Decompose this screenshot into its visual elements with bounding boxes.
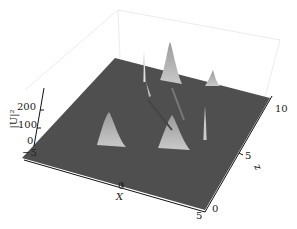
z-tick-200: 200	[17, 102, 36, 112]
y-tick-0: 0	[212, 204, 218, 214]
y-tick-5: 5	[245, 151, 251, 161]
x-tick-0: 0	[118, 181, 124, 191]
y-tick-10: 10	[275, 104, 288, 114]
z-tick-100: 100	[18, 120, 37, 130]
surface-plot	[0, 0, 297, 229]
z-axis-label: |U|²	[9, 109, 19, 128]
z-tick-0: 0	[27, 136, 33, 146]
x-axis-label: X	[116, 192, 123, 202]
surface-floor	[22, 58, 270, 210]
x-tick-5: 5	[196, 211, 202, 221]
x-tick-neg5: −5	[22, 148, 37, 158]
